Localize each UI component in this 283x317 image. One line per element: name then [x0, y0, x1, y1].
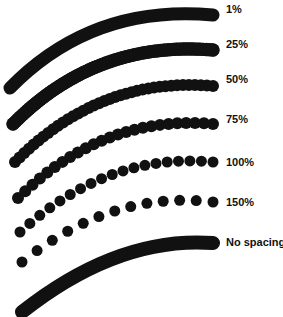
spacing-label-5: 150%: [226, 196, 254, 208]
spacing-label-3: 75%: [226, 113, 248, 125]
spacing-label-6: No spacing: [226, 236, 283, 248]
spacing-label-0: 1%: [226, 3, 242, 15]
stroke-6: [22, 242, 213, 312]
brush-spacing-figure: 1%25%50%75%100%150%No spacing: [0, 0, 283, 317]
spacing-label-4: 100%: [226, 156, 254, 168]
spacing-label-2: 50%: [226, 73, 248, 85]
spacing-label-1: 25%: [226, 38, 248, 50]
